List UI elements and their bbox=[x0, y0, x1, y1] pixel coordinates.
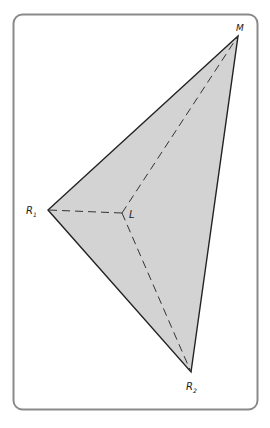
label-m: M bbox=[236, 23, 244, 33]
triangle-m-r1-r2 bbox=[48, 36, 238, 372]
label-l: L bbox=[129, 209, 135, 220]
label-r2: R2 bbox=[186, 381, 197, 394]
diagram-canvas: M R1 L R2 bbox=[0, 0, 270, 428]
label-r1: R1 bbox=[26, 205, 37, 218]
